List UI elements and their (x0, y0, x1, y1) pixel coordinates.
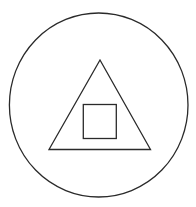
nested-shapes-diagram (0, 0, 196, 207)
inner-square (83, 105, 116, 139)
